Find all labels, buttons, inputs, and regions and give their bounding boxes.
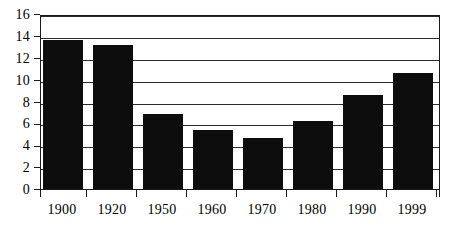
y-tick-label: 12 (16, 49, 30, 69)
x-tick-mark (286, 190, 287, 197)
x-axis: 19001920195019601970198019901999 (40, 190, 440, 230)
y-tick-label: 2 (23, 158, 30, 178)
bar-1999[interactable] (393, 73, 433, 189)
y-tick-label: 4 (23, 136, 30, 156)
x-tick-mark-end (439, 190, 440, 197)
bar-slot (241, 16, 291, 189)
bar-1980[interactable] (293, 121, 333, 189)
bar-slot (191, 16, 241, 189)
x-tick-mark (386, 190, 387, 197)
y-tick-label: 0 (23, 180, 30, 200)
x-tick-mark-start (40, 190, 41, 197)
y-tick-label: 8 (23, 93, 30, 113)
bar-1950[interactable] (143, 114, 183, 189)
bar-slot (291, 16, 341, 189)
bar-slot (341, 16, 391, 189)
bar-1990[interactable] (343, 95, 383, 189)
x-tick-mark (336, 190, 337, 197)
x-tick-label-1999: 1999 (382, 201, 442, 219)
x-tick-mark (86, 190, 87, 197)
x-tick-mark (186, 190, 187, 197)
bar-1970[interactable] (243, 138, 283, 189)
x-tick-mark (136, 190, 137, 197)
y-tick-label: 16 (16, 5, 30, 25)
bar-slot (141, 16, 191, 189)
bar-chart: 0246810121416 19001920195019601970198019… (0, 0, 462, 230)
bar-slot (91, 16, 141, 189)
bar-1960[interactable] (193, 130, 233, 189)
bars-layer (41, 16, 439, 189)
plot-area (40, 15, 440, 190)
bar-1900[interactable] (43, 40, 83, 189)
y-axis: 0246810121416 (0, 15, 40, 190)
x-tick-mark (236, 190, 237, 197)
x-tick-mark (436, 190, 437, 197)
bar-slot (41, 16, 91, 189)
y-tick-label: 14 (16, 27, 30, 47)
y-tick-label: 6 (23, 114, 30, 134)
y-tick-label: 10 (16, 71, 30, 91)
bar-slot (391, 16, 440, 189)
bar-1920[interactable] (93, 45, 133, 189)
